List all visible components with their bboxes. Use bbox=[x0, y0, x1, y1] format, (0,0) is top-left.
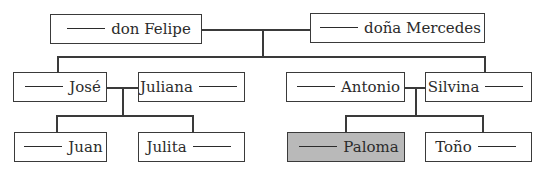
person-name: Julita bbox=[146, 138, 186, 156]
blank-field[interactable] bbox=[297, 85, 335, 87]
person-box-juliana: Juliana bbox=[138, 72, 245, 102]
person-box-tono: Toño bbox=[425, 132, 532, 162]
person-box-juan: Juan bbox=[14, 132, 107, 162]
person-name: Toño bbox=[435, 138, 472, 156]
drop-line-jose bbox=[57, 56, 59, 72]
person-name: José bbox=[69, 78, 101, 96]
drop-line-tono bbox=[482, 115, 484, 132]
blank-field[interactable] bbox=[199, 85, 237, 87]
drop-line-juan bbox=[56, 115, 58, 132]
person-name: Juan bbox=[68, 138, 102, 156]
sibling-line-paloma-tono bbox=[345, 115, 483, 117]
person-name: doña Mercedes bbox=[364, 19, 481, 37]
sibling-line-gen2 bbox=[57, 56, 485, 58]
person-box-silvina: Silvina bbox=[425, 72, 532, 102]
drop-line-silvina bbox=[484, 56, 486, 72]
person-box-paloma: Paloma bbox=[287, 132, 405, 162]
person-name: don Felipe bbox=[111, 20, 191, 38]
blank-field[interactable] bbox=[320, 26, 358, 28]
drop-line-julita bbox=[192, 115, 194, 132]
drop-line-paloma bbox=[345, 115, 347, 132]
person-name: Antonio bbox=[341, 78, 400, 96]
person-box-felipe: don Felipe bbox=[50, 14, 202, 44]
blank-field[interactable] bbox=[485, 85, 523, 87]
blank-field[interactable] bbox=[299, 145, 337, 147]
couple-line-felipe-mercedes bbox=[202, 29, 310, 31]
descent-line-antonio-silvina bbox=[415, 87, 417, 116]
person-box-julita: Julita bbox=[138, 132, 245, 162]
person-box-antonio: Antonio bbox=[286, 72, 405, 102]
person-name: Juliana bbox=[140, 78, 193, 96]
descent-line-jose-juliana bbox=[122, 87, 124, 116]
sibling-line-juan-julita bbox=[56, 115, 193, 117]
blank-field[interactable] bbox=[25, 85, 63, 87]
blank-field[interactable] bbox=[478, 145, 516, 147]
blank-field[interactable] bbox=[193, 145, 231, 147]
person-box-jose: José bbox=[13, 72, 107, 102]
person-box-mercedes: doña Mercedes bbox=[310, 13, 485, 43]
descent-line-felipe-mercedes bbox=[262, 29, 264, 57]
person-name: Silvina bbox=[428, 78, 480, 96]
blank-field[interactable] bbox=[67, 27, 105, 29]
person-name: Paloma bbox=[343, 138, 398, 156]
blank-field[interactable] bbox=[24, 145, 62, 147]
